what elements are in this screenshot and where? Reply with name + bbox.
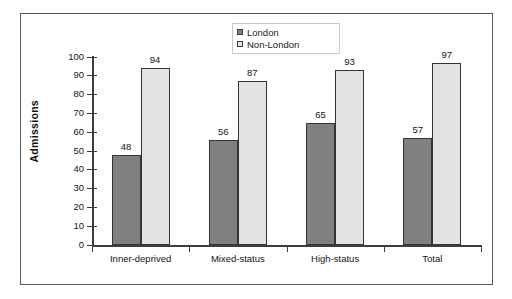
y-axis-tick-label: 80 bbox=[58, 89, 84, 99]
bar-london bbox=[209, 140, 238, 245]
x-axis-tick bbox=[189, 245, 190, 252]
y-axis-tick-label: 0 bbox=[58, 240, 84, 250]
y-axis-tick-label: 60 bbox=[58, 127, 84, 137]
y-axis-tick-label: 50 bbox=[58, 146, 84, 156]
legend-swatch-london-icon bbox=[237, 29, 243, 35]
x-axis-tick bbox=[287, 245, 288, 252]
legend-item-non-london: Non-London bbox=[237, 38, 335, 50]
bar-london bbox=[112, 155, 141, 245]
y-axis-tick-label: 40 bbox=[58, 164, 84, 174]
y-axis-tick-label: 20 bbox=[58, 202, 84, 212]
x-axis-tick bbox=[92, 245, 93, 252]
bar-value-label: 57 bbox=[397, 124, 438, 135]
legend-label-london: London bbox=[247, 27, 279, 38]
x-axis-category-label: Total bbox=[384, 253, 481, 264]
y-axis-tick-label: 30 bbox=[58, 183, 84, 193]
x-axis-category-label: Inner-deprived bbox=[92, 253, 189, 264]
bar-value-label: 65 bbox=[300, 109, 341, 120]
x-axis-category-label: High-status bbox=[287, 253, 384, 264]
bar-value-label: 97 bbox=[426, 49, 467, 60]
bar-chart: London Non-London Admissions 01020304050… bbox=[0, 0, 512, 299]
bar-non-london bbox=[238, 81, 267, 245]
x-axis-category-label: Mixed-status bbox=[189, 253, 286, 264]
chart-legend: London Non-London bbox=[232, 23, 340, 54]
plot-area bbox=[92, 57, 480, 245]
x-axis-tick bbox=[384, 245, 385, 252]
bar-london bbox=[306, 123, 335, 245]
bar-value-label: 93 bbox=[329, 56, 370, 67]
bar-value-label: 56 bbox=[203, 126, 244, 137]
x-axis-tick bbox=[481, 245, 482, 252]
y-axis-tick-label: 90 bbox=[58, 70, 84, 80]
bar-non-london bbox=[432, 63, 461, 245]
y-axis-title: Admissions bbox=[28, 100, 42, 163]
legend-label-non-london: Non-London bbox=[247, 39, 299, 50]
y-axis-tick-label: 70 bbox=[58, 108, 84, 118]
bar-value-label: 48 bbox=[106, 141, 147, 152]
y-axis-tick-label: 10 bbox=[58, 221, 84, 231]
legend-swatch-non-london-icon bbox=[237, 41, 243, 47]
y-axis-tick-labels: 0102030405060708090100 bbox=[54, 0, 84, 299]
y-axis-tick-label: 100 bbox=[58, 52, 84, 62]
bar-non-london bbox=[335, 70, 364, 245]
bar-london bbox=[403, 138, 432, 245]
legend-item-london: London bbox=[237, 26, 335, 38]
bar-value-label: 87 bbox=[232, 67, 273, 78]
bar-non-london bbox=[141, 68, 170, 245]
bar-value-label: 94 bbox=[135, 54, 176, 65]
